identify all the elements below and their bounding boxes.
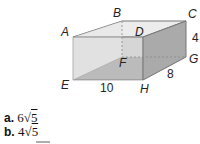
vertex-label-e: E xyxy=(61,79,69,91)
vertex-label-g: G xyxy=(189,53,198,65)
length-label: 10 xyxy=(100,82,113,94)
height-label: 4 xyxy=(192,32,199,44)
radical-icon: √ xyxy=(24,110,31,125)
option-a[interactable]: a. 6√5 xyxy=(4,111,38,125)
vertex-label-c: C xyxy=(188,8,197,20)
radicand: 5 xyxy=(31,110,38,125)
front-face xyxy=(73,37,143,80)
vertex-label-f: F xyxy=(119,57,126,69)
radicand: 5 xyxy=(32,124,39,139)
vertex-label-d: D xyxy=(135,26,144,38)
width-label: 8 xyxy=(167,68,174,80)
option-b[interactable]: b. 4√5 xyxy=(4,125,38,139)
vertex-label-b: B xyxy=(113,7,121,19)
option-letter: b. xyxy=(4,125,15,139)
radical-icon: √ xyxy=(25,124,32,139)
option-letter: a. xyxy=(4,111,14,125)
vertex-label-a: A xyxy=(61,26,69,38)
vertex-label-h: H xyxy=(140,83,149,95)
